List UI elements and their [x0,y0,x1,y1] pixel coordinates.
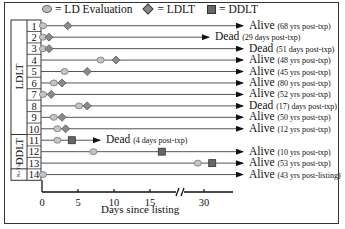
ldlt-marker [62,125,70,133]
outcome-status: Alive [249,65,277,77]
ld-evaluation-marker [97,57,104,63]
outcome-label: Alive (12 yrs post-txp) [249,123,331,135]
outcome-detail: (17) days post-txp) [276,102,337,111]
ldlt-marker [64,22,72,30]
ldlt-marker [45,33,53,41]
x-axis-label: Days since listing [101,203,179,215]
ldlt-marker [83,68,91,76]
outcome-detail: (68 yrs post-txp) [277,22,330,31]
outcome-detail: (50 yrs post-txp) [277,113,330,122]
ldlt-marker [47,90,55,98]
outcome-detail: (12 yrs post-txp) [277,125,330,134]
ldlt-marker [58,79,66,87]
outcome-status: Alive [249,87,277,99]
ld-evaluation-marker [50,80,57,86]
outcome-status: Alive [249,76,277,88]
row-number: 14 [27,169,41,180]
x-tick-label: 0 [32,197,52,208]
row-number: 5 [27,66,41,77]
outcome-status: Alive [249,168,277,180]
ld-evaluation-marker [90,149,97,155]
outcome-status: Dead [249,99,276,111]
outcome-detail: (51 days post-txp) [276,45,334,54]
outcome-label: Alive (43 yrs post-listing) [249,169,341,181]
ld-evaluation-marker [75,103,82,109]
row-number: 13 [27,158,41,169]
outcome-detail: (43 yrs post-listing) [277,171,340,180]
row-number: 9 [27,112,41,123]
outcome-label: Dead (4 days post-txp) [106,134,187,146]
ldlt-marker [45,45,53,53]
ddlt-marker [209,160,216,167]
ldlt-marker [58,113,66,121]
x-tick-label: 30 [194,197,214,208]
row-number: 2 [27,32,41,43]
row-number: 10 [27,124,41,135]
outcome-label: Alive (68 yrs post-txp) [249,20,331,32]
outcome-detail: (48 yrs post-txp) [277,56,330,65]
ld-evaluation-marker [194,160,201,166]
outcome-detail: (52 yrs post-txp) [277,90,330,99]
outcome-status: Alive [249,19,277,31]
group-label: No Txp [16,165,21,176]
ddlt-marker [68,137,75,144]
outcome-detail: (45 yrs post-txp) [277,68,330,77]
outcome-detail: (80 yrs post-txp) [277,79,330,88]
row-number: 3 [27,43,41,54]
ld-evaluation-marker [61,69,68,75]
row-number: 12 [27,146,41,157]
ld-evaluation-marker [54,126,61,132]
outcome-status: Alive [249,145,277,157]
outcome-detail: (10 yrs post-txp) [277,148,330,157]
ldlt-marker [83,102,91,110]
ld-evaluation-marker [50,114,57,120]
x-tick-label: 5 [68,197,88,208]
outcome-status: Alive [249,156,277,168]
group-label: LDLT [14,20,25,135]
row-number: 1 [27,21,41,32]
ldlt-marker [112,56,120,64]
ddlt-marker [158,148,165,155]
row-number: 11 [27,135,41,146]
outcome-detail: (4 days post-txp) [133,136,187,145]
outcome-status: Alive [249,110,277,122]
outcome-status: Dead [249,42,276,54]
row-number: 4 [27,55,41,66]
outcome-detail: (53 yrs post-txp) [277,159,330,168]
row-number: 6 [27,78,41,89]
outcome-status: Dead [215,30,242,42]
row-number: 8 [27,101,41,112]
outcome-status: Dead [106,133,133,145]
ld-evaluation-marker [54,137,61,143]
outcome-status: Alive [249,122,277,134]
axis-break-icon [181,188,184,196]
row-number: 7 [27,89,41,100]
axis-break-icon [176,188,179,196]
outcome-status: Alive [249,53,277,65]
